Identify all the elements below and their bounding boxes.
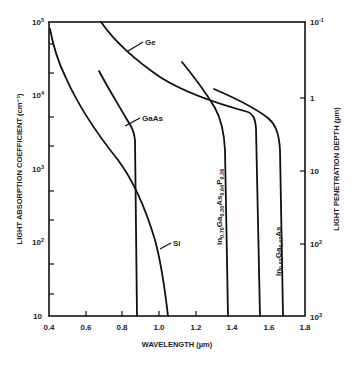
svg-text:0.4: 0.4: [43, 323, 55, 332]
curve-si: [50, 29, 168, 316]
label-ingaas: In0.53Ga0.47As: [274, 226, 284, 276]
left-y-tick-labels: 105 104 103 102 10: [32, 17, 45, 321]
svg-text:1.4: 1.4: [226, 323, 238, 332]
svg-text:1.2: 1.2: [190, 323, 202, 332]
svg-text:1.6: 1.6: [263, 323, 275, 332]
svg-text:10: 10: [33, 312, 42, 321]
absorption-chart: 0.4 0.6 0.8 1.0 1.2 1.4 1.6 1.8 105 104 …: [0, 0, 354, 367]
svg-text:10: 10: [310, 167, 319, 176]
label-si: Si: [173, 239, 181, 248]
svg-text:105: 105: [32, 17, 44, 27]
right-y-tick-labels: 10-1 1 10 102 103: [310, 17, 324, 322]
label-ingaasp: In0.70Ga0.30As0.64P0.36: [215, 169, 225, 245]
svg-text:103: 103: [32, 164, 44, 174]
plot-frame: [49, 22, 305, 316]
svg-text:1: 1: [310, 94, 315, 103]
svg-text:102: 102: [310, 239, 322, 249]
curve-gaas: [99, 71, 137, 316]
si-leader: [160, 243, 171, 249]
svg-text:104: 104: [32, 90, 45, 100]
svg-text:0.8: 0.8: [116, 323, 128, 332]
curve-ingaas: [214, 89, 283, 316]
svg-text:102: 102: [32, 237, 44, 247]
label-ge: Ge: [145, 38, 156, 47]
svg-text:0.6: 0.6: [80, 323, 92, 332]
x-axis-title: WAVELENGTH (µm): [142, 340, 213, 349]
x-tick-labels: 0.4 0.6 0.8 1.0 1.2 1.4 1.6 1.8: [43, 323, 311, 332]
label-gaas: GaAs: [142, 114, 163, 123]
ge-leader: [128, 42, 143, 51]
svg-text:1.8: 1.8: [299, 323, 311, 332]
svg-text:103: 103: [310, 312, 322, 322]
svg-text:1.0: 1.0: [153, 323, 165, 332]
y2-axis-title: LIGHT PENETRATION DEPTH (µm): [332, 107, 341, 231]
svg-text:10-1: 10-1: [310, 17, 324, 27]
y-axis-title: LIGHT ABSORPTION COEFFICIENT (cm⁻¹): [15, 93, 24, 244]
